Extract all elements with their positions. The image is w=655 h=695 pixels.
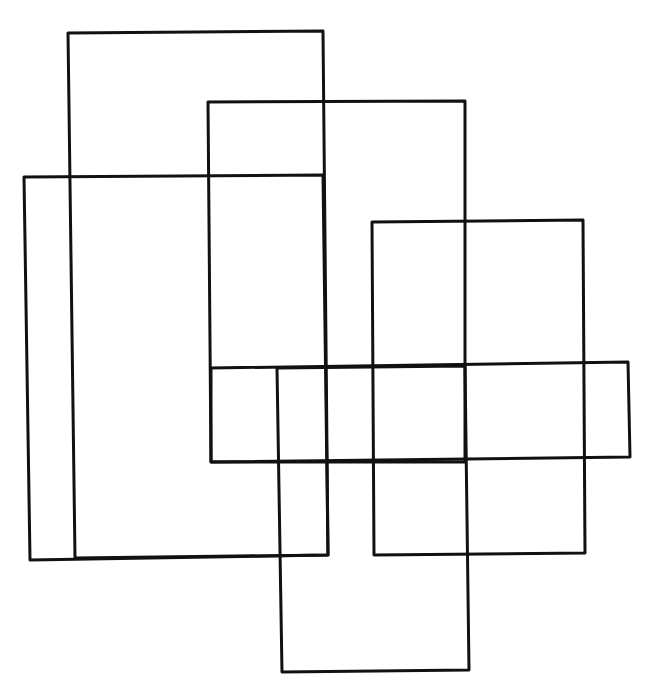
rectangle-tall-left <box>68 31 328 558</box>
rectangle-upper-middle <box>208 101 465 462</box>
overlapping-rectangles-diagram <box>0 0 655 695</box>
rectangle-horizontal-band <box>211 362 630 462</box>
rectangle-right <box>372 220 585 555</box>
